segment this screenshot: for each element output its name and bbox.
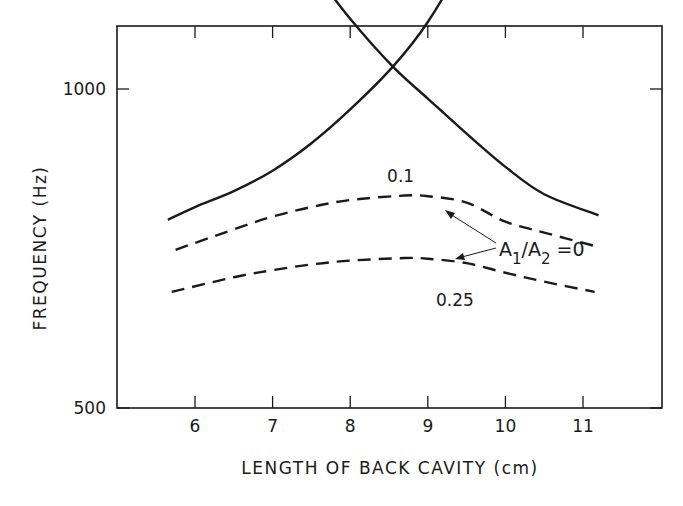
y-axis-label: FREQUENCY (Hz) <box>30 166 50 331</box>
x-tick-label: 8 <box>345 416 356 436</box>
x-tick-label: 11 <box>572 416 594 436</box>
x-axis-label: LENGTH OF BACK CAVITY (cm) <box>241 458 538 478</box>
plot-frame <box>117 26 662 408</box>
ann-sub1: 1 <box>512 250 522 268</box>
axis-ticks: 6789101150010001500 <box>63 0 662 436</box>
ann-slash-a: /A <box>522 238 541 260</box>
curve-labels: 0.250.10.10.25 <box>387 0 497 310</box>
frequency-chart: 6789101150010001500 0.250.10.10.25 LENGT… <box>0 0 683 506</box>
curve-label: 0.25 <box>436 290 474 310</box>
annotation-arrow-upper <box>447 212 496 243</box>
svg-text:A1/A2=0: A1/A2=0 <box>499 238 585 268</box>
arrowhead-icon <box>455 253 465 260</box>
curve-a1-a2-0-25-lower- <box>172 258 595 292</box>
ann-a: A <box>499 238 512 260</box>
x-tick-label: 10 <box>495 416 517 436</box>
curve-a1-a2-0-lower-branch-rising- <box>168 0 591 220</box>
arrowhead-icon <box>445 210 455 219</box>
ann-sub2: 2 <box>541 250 551 268</box>
annotation-a1-a2-equals-0: A1/A2=0 <box>445 210 585 268</box>
y-tick-label: 1000 <box>63 79 106 99</box>
y-tick-label: 500 <box>74 398 106 418</box>
x-tick-label: 7 <box>267 416 278 436</box>
x-tick-label: 9 <box>422 416 433 436</box>
ann-eq: =0 <box>557 238 585 260</box>
curve-label: 0.1 <box>387 166 414 186</box>
x-tick-label: 6 <box>190 416 201 436</box>
plot-border <box>117 26 662 408</box>
